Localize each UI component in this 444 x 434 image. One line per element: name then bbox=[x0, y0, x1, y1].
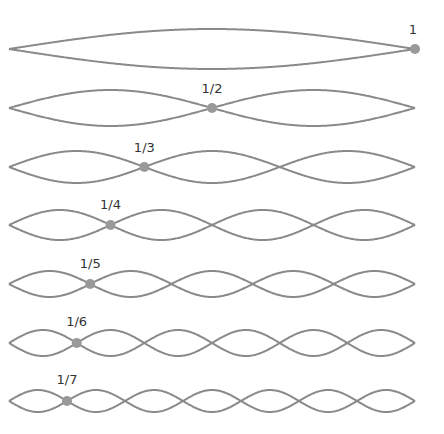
wave-upper bbox=[9, 151, 415, 183]
harmonic-label: 1/6 bbox=[66, 314, 87, 329]
standing-waves bbox=[0, 0, 444, 434]
harmonic-label: 1/3 bbox=[134, 140, 155, 155]
node-dot bbox=[106, 220, 116, 230]
wave-upper bbox=[9, 29, 415, 49]
node-dot bbox=[62, 396, 72, 406]
harmonic-row-3 bbox=[9, 151, 415, 183]
node-dot bbox=[410, 44, 420, 54]
harmonic-row-4 bbox=[9, 210, 415, 240]
wave-lower bbox=[9, 210, 415, 240]
node-dot bbox=[207, 103, 217, 113]
harmonic-row-6 bbox=[9, 330, 415, 356]
harmonic-label: 1/4 bbox=[100, 197, 121, 212]
wave-lower bbox=[9, 330, 415, 356]
harmonic-label: 1/7 bbox=[57, 372, 78, 387]
harmonic-label: 1 bbox=[409, 22, 417, 37]
wave-lower bbox=[9, 151, 415, 183]
harmonic-label: 1/2 bbox=[202, 81, 223, 96]
harmonics-diagram: 11/21/31/41/51/61/7 bbox=[0, 0, 444, 434]
harmonic-label: 1/5 bbox=[80, 256, 101, 271]
node-dot bbox=[85, 279, 95, 289]
harmonic-row-5 bbox=[9, 271, 415, 297]
harmonic-row-1 bbox=[9, 29, 420, 69]
node-dot bbox=[139, 162, 149, 172]
harmonic-row-7 bbox=[9, 390, 415, 412]
node-dot bbox=[72, 338, 82, 348]
wave-lower bbox=[9, 49, 415, 69]
